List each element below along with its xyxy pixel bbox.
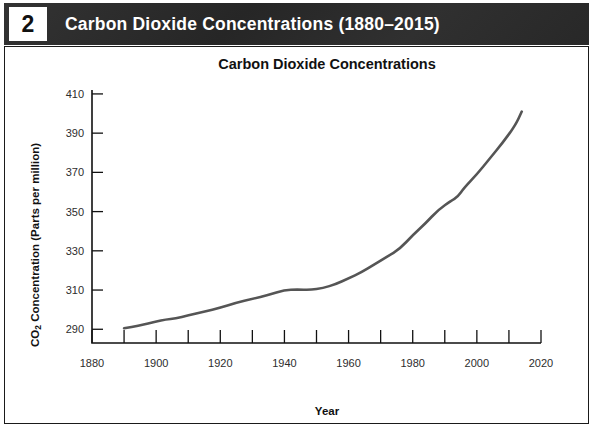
figure-header-title: Carbon Dioxide Concentrations (1880–2015… [65,14,440,35]
x-tick-label: 1900 [144,357,168,369]
x-tick-label: 2000 [465,357,489,369]
x-tick-label: 1940 [272,357,296,369]
svg-text:CO2 Concentration (Parts per m: CO2 Concentration (Parts per million) [29,143,43,347]
data-series-line [124,112,522,329]
y-axis-title-prefix: CO [29,330,41,347]
x-tick-label: 1980 [400,357,424,369]
x-axis-title: Year [315,405,340,417]
figure-number-box: 2 [9,7,47,41]
y-tick-label: 310 [66,284,84,296]
y-axis-title-suffix: Concentration (Parts per million) [29,143,41,325]
y-axis-ticks: 290310330350370390410 [66,88,103,335]
x-tick-label: 1960 [336,357,360,369]
chart-title: Carbon Dioxide Concentrations [218,56,436,72]
y-tick-label: 350 [66,206,84,218]
x-axis-ticks: 18801900192019401960198020002020 [80,330,553,369]
figure-root: 2 Carbon Dioxide Concentrations (1880–20… [0,0,593,428]
y-tick-label: 410 [66,88,84,100]
chart-panel: Carbon Dioxide Concentrations CO2 Concen… [4,46,589,424]
x-tick-label: 1880 [80,357,104,369]
line-chart: Carbon Dioxide Concentrations CO2 Concen… [5,47,588,423]
figure-header-bar: 2 Carbon Dioxide Concentrations (1880–20… [4,3,589,45]
y-tick-label: 390 [66,127,84,139]
y-tick-label: 290 [66,323,84,335]
x-tick-label: 2020 [529,357,553,369]
x-tick-label: 1920 [208,357,232,369]
y-axis-title: CO2 Concentration (Parts per million) [29,143,43,347]
axis-frame [92,90,541,343]
figure-number: 2 [22,13,35,36]
y-tick-label: 370 [66,166,84,178]
y-tick-label: 330 [66,245,84,257]
